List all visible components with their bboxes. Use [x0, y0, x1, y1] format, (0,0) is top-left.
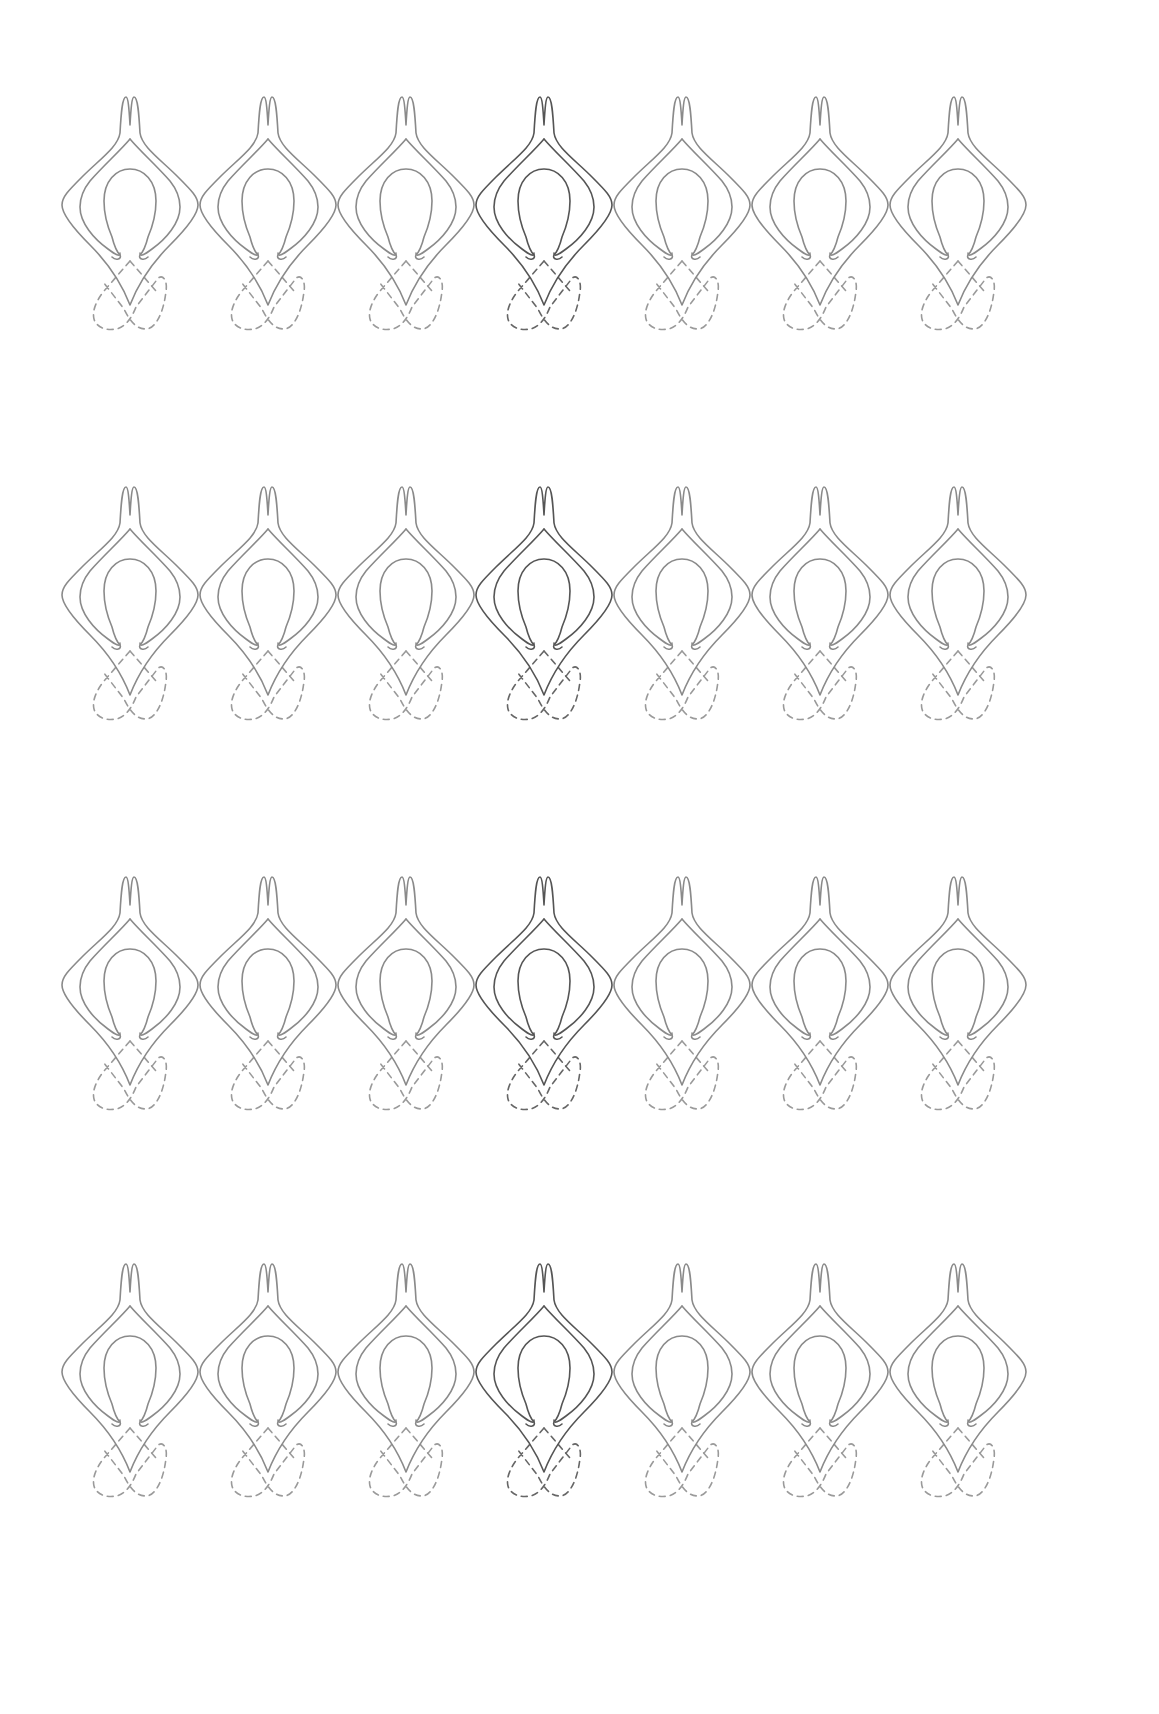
motif-dashed-loops	[93, 651, 166, 720]
pattern-motif	[62, 97, 198, 330]
motif-outline	[476, 487, 612, 695]
motif-outline	[752, 97, 888, 305]
motif-outline	[890, 877, 1026, 1085]
motif-dashed-loops	[783, 1041, 856, 1110]
pattern-motif	[200, 1264, 336, 1497]
motif-outline	[890, 1264, 1026, 1472]
motif-dashed-loops	[231, 651, 304, 720]
motif-outline	[62, 877, 198, 1085]
pattern-motif	[614, 1264, 750, 1497]
pattern-motif	[476, 487, 612, 720]
motif-outline	[200, 97, 336, 305]
pattern-motif	[752, 877, 888, 1110]
motif-dashed-loops	[645, 261, 718, 330]
motif-dashed-loops	[783, 261, 856, 330]
motif-dashed-loops	[507, 1041, 580, 1110]
motif-dashed-loops	[93, 261, 166, 330]
motif-dashed-loops	[231, 1428, 304, 1497]
motif-dashed-loops	[507, 651, 580, 720]
pattern-motif	[62, 877, 198, 1110]
motif-outline	[200, 877, 336, 1085]
motif-dashed-loops	[369, 261, 442, 330]
motif-outline	[338, 877, 474, 1085]
motif-outline	[476, 1264, 612, 1472]
pattern-motif	[890, 487, 1026, 720]
pattern-motif	[476, 97, 612, 330]
pattern-motif	[338, 1264, 474, 1497]
motif-dashed-loops	[783, 1428, 856, 1497]
motif-outline	[62, 1264, 198, 1472]
motif-outline	[614, 487, 750, 695]
motif-dashed-loops	[507, 261, 580, 330]
motif-dashed-loops	[369, 651, 442, 720]
motif-outline	[338, 487, 474, 695]
motif-dashed-loops	[645, 1041, 718, 1110]
pattern-motif	[62, 1264, 198, 1497]
pattern-motif	[890, 1264, 1026, 1497]
motif-outline	[890, 97, 1026, 305]
motif-outline	[614, 97, 750, 305]
motif-dashed-loops	[231, 1041, 304, 1110]
motif-dashed-loops	[369, 1041, 442, 1110]
motif-outline	[200, 487, 336, 695]
motif-outline	[476, 97, 612, 305]
motif-outline	[200, 1264, 336, 1472]
pattern-canvas	[0, 0, 1159, 1714]
pattern-motif	[62, 487, 198, 720]
pattern-motif	[476, 877, 612, 1110]
pattern-motif	[614, 97, 750, 330]
pattern-motif	[338, 877, 474, 1110]
pattern-motif	[200, 487, 336, 720]
motif-dashed-loops	[93, 1428, 166, 1497]
motif-dashed-loops	[921, 1041, 994, 1110]
pattern-motif	[890, 877, 1026, 1110]
pattern-motif	[752, 1264, 888, 1497]
pattern-motif	[338, 97, 474, 330]
motif-outline	[62, 97, 198, 305]
motif-outline	[476, 877, 612, 1085]
pattern-motif	[890, 97, 1026, 330]
motif-dashed-loops	[645, 1428, 718, 1497]
motif-outline	[62, 487, 198, 695]
motif-dashed-loops	[783, 651, 856, 720]
motif-dashed-loops	[645, 651, 718, 720]
motif-dashed-loops	[369, 1428, 442, 1497]
pattern-motif	[338, 487, 474, 720]
motif-dashed-loops	[507, 1428, 580, 1497]
motif-outline	[890, 487, 1026, 695]
pattern-motif	[476, 1264, 612, 1497]
motif-dashed-loops	[93, 1041, 166, 1110]
motif-dashed-loops	[231, 261, 304, 330]
pattern-motif	[200, 97, 336, 330]
pattern-motif	[200, 877, 336, 1110]
motif-dashed-loops	[921, 261, 994, 330]
pattern-grid	[62, 97, 1026, 1497]
motif-outline	[752, 1264, 888, 1472]
pattern-motif	[752, 487, 888, 720]
motif-outline	[614, 877, 750, 1085]
pattern-motif	[614, 877, 750, 1110]
motif-outline	[614, 1264, 750, 1472]
motif-outline	[338, 97, 474, 305]
motif-dashed-loops	[921, 651, 994, 720]
motif-outline	[752, 877, 888, 1085]
motif-dashed-loops	[921, 1428, 994, 1497]
pattern-motif	[752, 97, 888, 330]
motif-outline	[338, 1264, 474, 1472]
motif-outline	[752, 487, 888, 695]
pattern-motif	[614, 487, 750, 720]
